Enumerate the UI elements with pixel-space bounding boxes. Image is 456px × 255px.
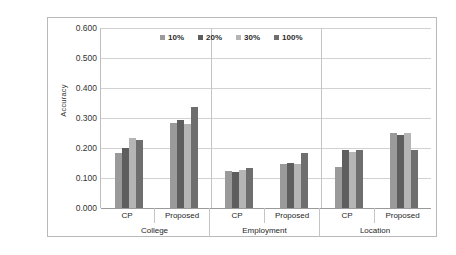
bar-group-location [321,28,431,208]
bar [239,170,246,208]
bar [184,124,191,208]
bar [280,164,287,208]
x-subgroup-label: Proposed [375,208,430,223]
bar [404,133,411,208]
bar [232,172,239,208]
y-tick-label: 0.300 [55,113,97,123]
bar-subgroup [156,28,211,208]
legend-label: 10% [168,33,184,42]
y-tick-label: 0.400 [55,83,97,93]
bar [342,150,349,208]
x-axis-group-row: CollegeEmploymentLocation [100,223,430,237]
bar [177,120,184,209]
x-group-label: College [100,223,210,237]
legend-item[interactable]: 100% [274,33,302,42]
bar-subgroup [266,28,321,208]
chart-legend: 10%20%30%100% [160,33,303,42]
bar [301,153,308,209]
legend-item[interactable]: 10% [160,33,184,42]
bar-series-container [101,28,431,208]
x-subgroup-label: Proposed [155,208,210,223]
x-subgroup-label: CP [210,208,265,223]
y-tick-label: 0.000 [55,203,97,213]
legend-label: 30% [244,33,260,42]
bar [170,123,177,208]
bar [129,138,136,208]
bar [225,171,232,208]
bar [287,163,294,208]
y-axis-tick-labels: 0.6000.5000.4000.3000.2000.1000.000 [55,17,97,237]
legend-swatch-icon [236,35,241,40]
legend-item[interactable]: 30% [236,33,260,42]
bar [136,140,143,208]
legend-label: 100% [282,33,302,42]
bar [390,133,397,208]
x-axis-labels: CPProposedCPProposedCPProposed CollegeEm… [100,208,430,237]
x-group-label: Employment [210,223,320,237]
bar-subgroup [321,28,376,208]
bar [191,107,198,208]
legend-label: 20% [206,33,222,42]
bar-subgroup [101,28,156,208]
bar [122,148,129,208]
x-subgroup-label: Proposed [265,208,320,223]
bar-subgroup [376,28,431,208]
bar [349,152,356,208]
bar-group-college [101,28,211,208]
legend-item[interactable]: 20% [198,33,222,42]
x-subgroup-label: CP [320,208,375,223]
bar [294,164,301,208]
bar [335,167,342,208]
x-axis-subgroup-row: CPProposedCPProposedCPProposed [100,208,430,223]
legend-swatch-icon [274,35,279,40]
y-tick-label: 0.200 [55,143,97,153]
legend-swatch-icon [198,35,203,40]
x-subgroup-label: CP [100,208,155,223]
bar [411,150,418,209]
plot-area [100,28,431,208]
legend-swatch-icon [160,35,165,40]
bar [397,135,404,208]
y-tick-label: 0.600 [55,23,97,33]
bar [356,150,363,208]
y-tick-label: 0.100 [55,173,97,183]
bar [115,153,122,209]
x-group-label: Location [320,223,430,237]
bar [246,168,253,209]
bar-group-employment [211,28,321,208]
y-tick-label: 0.500 [55,53,97,63]
bar-subgroup [211,28,266,208]
